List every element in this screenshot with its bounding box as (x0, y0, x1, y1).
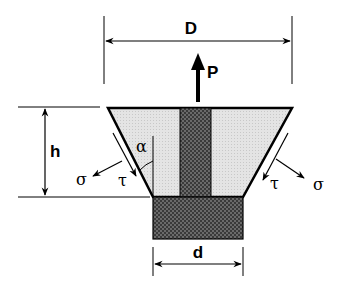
label-P: P (207, 63, 218, 82)
diagram-canvas: D P h α σ τ τ σ d (0, 0, 340, 293)
anchor-block (153, 197, 243, 239)
label-d: d (193, 243, 203, 262)
label-tau-right: τ (270, 174, 279, 193)
label-D: D (185, 19, 197, 38)
central-rod (180, 108, 211, 197)
label-sigma-right: σ (313, 175, 324, 194)
label-tau-left: τ (118, 171, 127, 190)
dimension-d: d (153, 243, 243, 276)
label-alpha: α (136, 137, 147, 156)
load-arrow-P: P (191, 53, 218, 102)
label-sigma-left: σ (76, 170, 87, 189)
label-h: h (50, 142, 60, 161)
